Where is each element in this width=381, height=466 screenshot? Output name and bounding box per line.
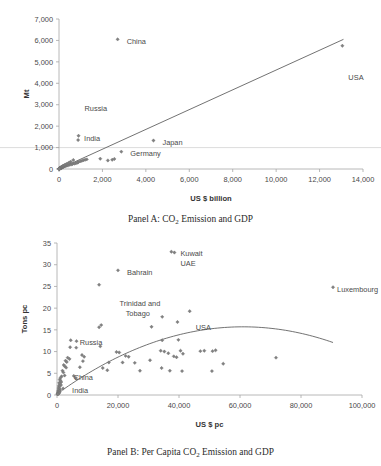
panel-a-chart: 01,0002,0003,0004,0005,0006,0007,00002,0… — [0, 0, 381, 233]
y-tick-label: 4,000 — [35, 79, 54, 88]
x-tick-label: 6,000 — [180, 175, 199, 184]
data-point-india — [76, 138, 79, 141]
data-point-china — [116, 38, 119, 41]
x-tick-label: 0 — [55, 401, 59, 410]
data-point-bahrain — [116, 269, 119, 272]
data-point — [101, 366, 104, 369]
data-point — [180, 369, 183, 372]
x-tick-label: 4,000 — [137, 175, 156, 184]
x-tick-label: 2,000 — [93, 175, 112, 184]
data-point — [203, 349, 206, 352]
annotation-kuwait: Kuwait — [180, 249, 202, 258]
data-point-russia — [77, 134, 80, 137]
data-point — [159, 349, 162, 352]
data-point — [115, 350, 118, 353]
data-point — [127, 355, 130, 358]
data-point — [75, 339, 78, 342]
data-point — [118, 351, 121, 354]
data-point — [138, 369, 141, 372]
panel-b-caption-subscript: 2 — [196, 451, 200, 459]
y-tick-label: 35 — [43, 239, 51, 248]
annotation-trinidad-and: Trinidad and — [120, 299, 161, 308]
data-point — [176, 320, 179, 323]
per-capita-co2-gdp-scatter-plot: 05101520253035020,00040,00060,00080,0001… — [0, 228, 381, 447]
annotation-usa: USA — [348, 73, 363, 82]
panel-b-chart: 05101520253035020,00040,00060,00080,0001… — [0, 228, 381, 466]
annotation-luxembourg: Luxembourg — [337, 285, 378, 294]
annotation-usa: USA — [196, 323, 211, 332]
data-point — [161, 315, 164, 318]
annotation-uae: UAE — [180, 259, 195, 268]
y-tick-label: 15 — [43, 326, 51, 335]
annotation-germany: Germany — [130, 149, 161, 158]
data-point — [124, 354, 127, 357]
y-tick-label: 5,000 — [35, 58, 54, 67]
data-point — [199, 349, 202, 352]
x-axis-title: US $ billion — [190, 194, 232, 203]
data-point — [167, 352, 170, 355]
y-tick-label: 10 — [43, 347, 51, 356]
x-tick-label: 100,000 — [349, 401, 376, 410]
data-point-germany — [120, 150, 123, 153]
co2-gdp-scatter-plot: 01,0002,0003,0004,0005,0006,0007,00002,0… — [0, 0, 381, 214]
y-axis-title: Mt — [22, 89, 31, 98]
data-point — [210, 369, 213, 372]
y-tick-label: 0 — [49, 165, 53, 174]
data-point-usa — [188, 309, 191, 312]
y-tick-label: 20 — [43, 304, 51, 313]
x-tick-label: 40,000 — [168, 401, 191, 410]
annotation-russia: Russia — [85, 104, 108, 113]
data-point — [97, 283, 100, 286]
panel-b-caption-suffix: Emission and GDP — [200, 447, 274, 457]
data-point-kuwait — [170, 250, 173, 253]
data-point — [106, 159, 109, 162]
y-tick-label: 25 — [43, 282, 51, 291]
data-point — [214, 349, 217, 352]
data-point — [106, 369, 109, 372]
data-point-russia — [69, 339, 72, 342]
x-tick-label: 8,000 — [223, 175, 242, 184]
data-point — [211, 349, 214, 352]
panel-a-caption-suffix: Emission and GDP — [179, 214, 253, 224]
data-point-uae — [173, 251, 176, 254]
data-point — [78, 366, 81, 369]
y-tick-label: 3,000 — [35, 100, 54, 109]
annotation-china: China — [74, 373, 94, 382]
panel-b-caption-prefix: Panel B: Per Capita CO — [107, 447, 196, 457]
x-tick-label: 80,000 — [290, 401, 313, 410]
y-tick-label: 2,000 — [35, 122, 54, 131]
y-tick-label: 5 — [47, 369, 51, 378]
data-point — [133, 361, 136, 364]
data-point-usa — [341, 44, 344, 47]
data-point — [181, 352, 184, 355]
annotation-india: India — [84, 134, 101, 143]
annotation-bahrain: Bahrain — [127, 268, 152, 277]
x-tick-label: 12,000 — [308, 175, 331, 184]
y-tick-label: 30 — [43, 260, 51, 269]
annotation-india: India — [72, 386, 89, 395]
data-point — [81, 359, 84, 362]
data-point — [75, 346, 78, 349]
data-point-luxembourg — [331, 286, 334, 289]
panel-a-caption: Panel A: CO2 Emission and GDP — [0, 214, 381, 224]
x-tick-label: 20,000 — [107, 401, 130, 410]
annotation-russia: Russia — [80, 338, 103, 347]
y-tick-label: 0 — [47, 391, 51, 400]
data-point — [99, 157, 102, 160]
data-point — [148, 359, 151, 362]
data-point — [177, 338, 180, 341]
data-point — [160, 366, 163, 369]
data-point — [274, 356, 277, 359]
data-point — [121, 361, 124, 364]
x-tick-label: 0 — [57, 175, 61, 184]
x-tick-label: 14,000 — [352, 175, 375, 184]
data-point — [179, 349, 182, 352]
data-point — [68, 346, 71, 349]
y-axis-title: Tons pc — [20, 305, 29, 334]
data-point — [163, 350, 166, 353]
panel-b-caption: Panel B: Per Capita CO2 Emission and GDP — [0, 447, 381, 457]
data-point-japan — [152, 139, 155, 142]
x-tick-label: 60,000 — [229, 401, 252, 410]
annotation-china: China — [127, 37, 147, 46]
y-tick-label: 6,000 — [35, 36, 54, 45]
